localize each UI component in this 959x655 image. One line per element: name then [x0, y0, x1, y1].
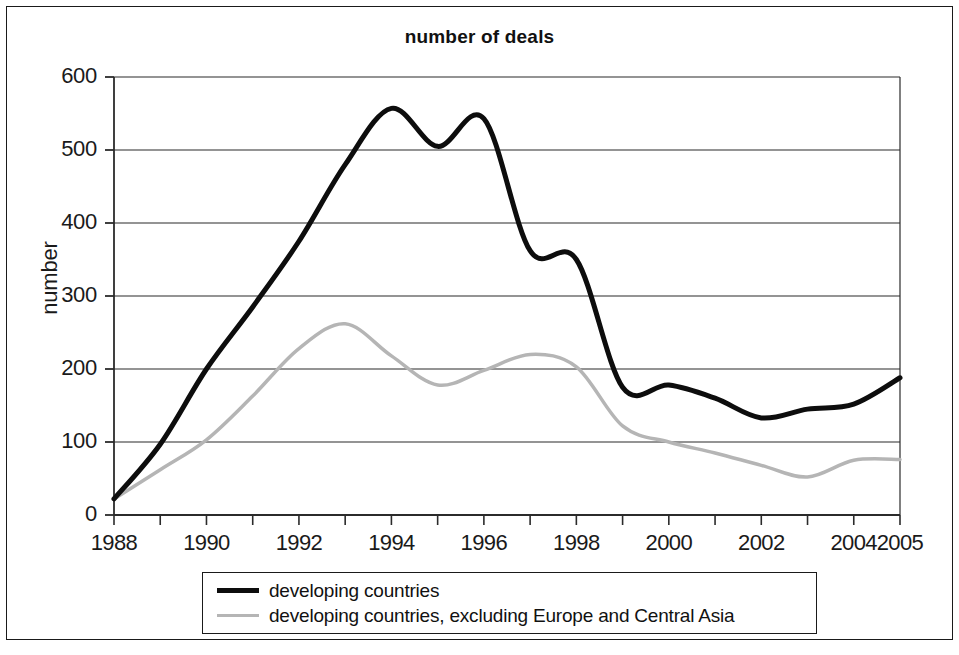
legend-swatch-gray-line: [217, 614, 259, 617]
data-series-line: [114, 324, 900, 499]
plot-area: [0, 0, 959, 655]
chart-legend: developing countries developing countrie…: [202, 572, 817, 634]
legend-item: developing countries: [217, 578, 816, 603]
y-tick-label: 200: [27, 355, 97, 381]
data-series-line: [114, 108, 900, 499]
legend-item-label: developing countries, excluding Europe a…: [269, 605, 734, 627]
y-tick-label: 500: [27, 136, 97, 162]
x-tick-label: 1996: [449, 530, 519, 556]
x-tick-label: 1992: [264, 530, 334, 556]
legend-swatch-black-line: [217, 588, 259, 593]
x-tick-label: 1994: [356, 530, 426, 556]
x-tick-label: 2002: [726, 530, 796, 556]
y-tick-label: 300: [27, 282, 97, 308]
y-tick-label: 400: [27, 209, 97, 235]
y-tick-label: 600: [27, 63, 97, 89]
x-tick-label: 1988: [79, 530, 149, 556]
x-tick-label: 1998: [541, 530, 611, 556]
chart-figure: number of deals number 60050040030020010…: [0, 0, 959, 655]
y-tick-label: 100: [27, 428, 97, 454]
x-tick-label: 1990: [171, 530, 241, 556]
x-tick-label: 2005: [865, 530, 935, 556]
x-tick-label: 2000: [634, 530, 704, 556]
y-tick-label: 0: [27, 501, 97, 527]
legend-item: developing countries, excluding Europe a…: [217, 603, 816, 628]
legend-item-label: developing countries: [269, 580, 439, 602]
